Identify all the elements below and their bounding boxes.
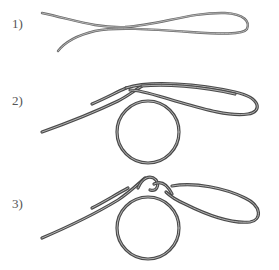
knot-diagram (0, 0, 279, 270)
step-3-rope (42, 177, 258, 259)
step-1-rope (42, 13, 248, 51)
step-2-rope (42, 84, 257, 163)
